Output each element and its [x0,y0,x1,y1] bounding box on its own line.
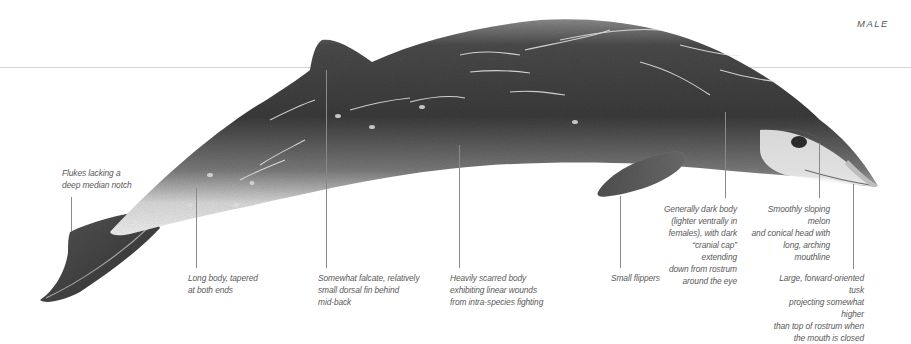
sex-tag: MALE [857,18,889,29]
whale-eye [791,136,807,148]
annotation-flippers: Small flippers [611,272,660,284]
annotation-long-body: Long body, tapered at both ends [188,272,258,296]
annotation-melon: Smoothly sloping melon and conical head … [750,203,830,263]
annotation-tusk: Large, forward-oriented tusk projecting … [770,272,864,344]
annotation-dorsal-fin: Somewhat falcate, relatively small dorsa… [318,272,419,308]
annotation-coloration: Generally dark body (lighter ventrally i… [660,203,737,287]
annotation-flukes: Flukes lacking a deep median notch [62,167,132,191]
annotation-scarred-body: Heavily scarred body exhibiting linear w… [450,272,543,308]
